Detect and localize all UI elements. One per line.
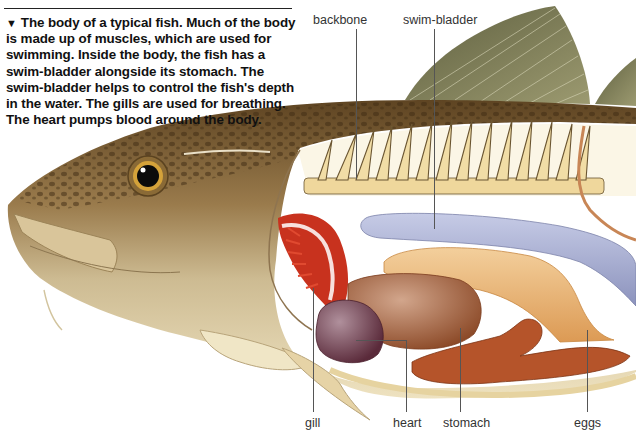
label-swim-bladder: swim-bladder xyxy=(403,13,477,27)
leader-heart xyxy=(406,340,407,412)
label-stomach: stomach xyxy=(443,416,490,430)
eye xyxy=(128,156,168,196)
caption-text: The body of a typical fish. Much of the … xyxy=(6,15,295,127)
leader-backbone xyxy=(356,29,357,179)
label-heart: heart xyxy=(393,416,422,430)
label-backbone: backbone xyxy=(313,13,367,27)
figure-caption: ▼The body of a typical fish. Much of the… xyxy=(6,15,296,128)
leader-heart-horizontal xyxy=(356,340,406,341)
label-gill: gill xyxy=(305,416,320,430)
fish-anatomy-figure: ▼The body of a typical fish. Much of the… xyxy=(0,0,636,437)
leader-eggs xyxy=(587,330,588,412)
triangle-marker-icon: ▼ xyxy=(6,17,17,29)
leader-gill xyxy=(313,288,314,412)
leader-swim-bladder xyxy=(434,29,435,229)
caption-rule xyxy=(4,8,292,9)
label-eggs: eggs xyxy=(574,416,601,430)
leader-stomach xyxy=(460,328,461,412)
